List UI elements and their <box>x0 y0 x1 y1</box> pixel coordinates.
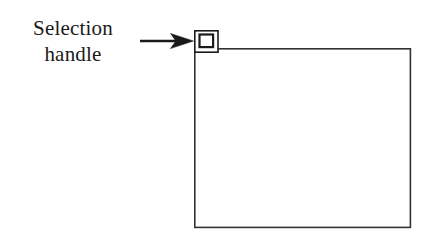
selection-handle-figure: Selection handle <box>0 0 430 238</box>
content-rectangle[interactable] <box>195 49 411 228</box>
callout-label: Selection handle <box>8 15 138 67</box>
callout-label-line-2: handle <box>8 41 138 67</box>
callout-label-line-1: Selection <box>8 15 138 41</box>
